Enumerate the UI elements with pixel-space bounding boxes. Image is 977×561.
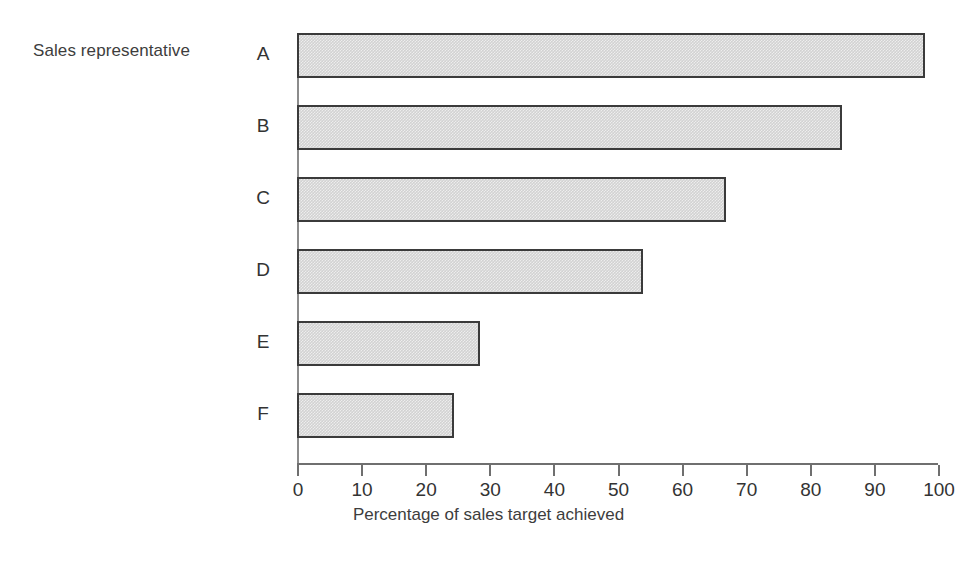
x-tick-label-50: 50 — [589, 479, 649, 501]
x-tick-60 — [682, 465, 684, 476]
x-tick-80 — [810, 465, 812, 476]
x-tick-50 — [618, 465, 620, 476]
bar-d — [297, 249, 643, 294]
x-tick-0 — [297, 465, 299, 476]
x-tick-label-10: 10 — [332, 479, 392, 501]
x-tick-30 — [489, 465, 491, 476]
x-tick-40 — [553, 465, 555, 476]
bar-c — [297, 177, 726, 222]
x-tick-10 — [361, 465, 363, 476]
x-tick-label-90: 90 — [845, 479, 905, 501]
x-tick-20 — [425, 465, 427, 476]
x-tick-100 — [938, 465, 940, 476]
x-tick-label-30: 30 — [460, 479, 520, 501]
x-tick-label-60: 60 — [653, 479, 713, 501]
bar-e — [297, 321, 480, 366]
x-tick-70 — [746, 465, 748, 476]
bar-f — [297, 393, 454, 438]
bar-b — [297, 105, 842, 150]
y-axis-title: Sales representative — [33, 41, 190, 61]
bar-a — [297, 33, 925, 78]
category-label-e: E — [248, 331, 278, 353]
x-tick-label-20: 20 — [396, 479, 456, 501]
x-tick-90 — [874, 465, 876, 476]
x-tick-label-70: 70 — [717, 479, 777, 501]
category-label-b: B — [248, 115, 278, 137]
category-label-f: F — [248, 403, 278, 425]
x-tick-label-40: 40 — [524, 479, 584, 501]
x-tick-label-100: 100 — [909, 479, 969, 501]
x-tick-label-0: 0 — [268, 479, 328, 501]
category-label-d: D — [248, 259, 278, 281]
category-label-c: C — [248, 187, 278, 209]
category-label-a: A — [248, 43, 278, 65]
x-tick-label-80: 80 — [781, 479, 841, 501]
bar-chart: Sales representative ABCDEF 010203040506… — [0, 0, 977, 561]
plot-area: 0102030405060708090100 — [297, 20, 942, 465]
x-axis-title: Percentage of sales target achieved — [0, 505, 977, 525]
